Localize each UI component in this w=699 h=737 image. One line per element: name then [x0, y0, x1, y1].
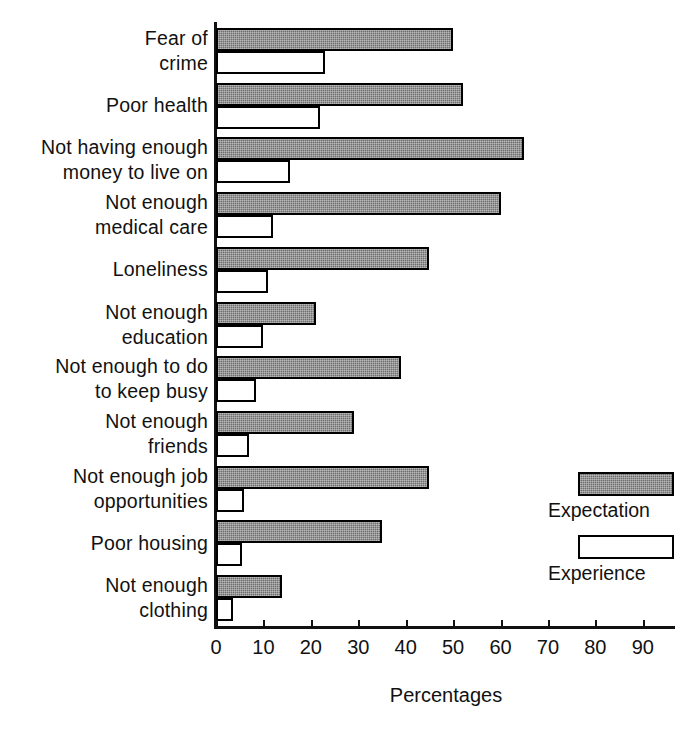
x-axis-tick-label: 40 — [386, 636, 426, 659]
x-axis-tick — [595, 620, 597, 629]
x-axis-tick — [216, 620, 218, 629]
x-axis-tick-label: 80 — [575, 636, 615, 659]
legend-entry-expectation: Expectation — [548, 472, 688, 523]
category-label: Not enough medical care — [0, 190, 208, 240]
bar-experience — [216, 270, 268, 293]
x-axis-tick-label: 60 — [481, 636, 521, 659]
bar-experience — [216, 160, 290, 183]
bar-experience — [216, 379, 256, 402]
bar-expectation — [216, 192, 501, 215]
bar-expectation — [216, 411, 354, 434]
x-axis-tick-label: 0 — [196, 636, 236, 659]
category-label: Fear of crime — [0, 26, 208, 76]
x-axis-tick-label: 50 — [433, 636, 473, 659]
x-axis-tick — [453, 620, 455, 629]
chart-legend: Expectation Experience — [548, 472, 688, 598]
x-axis-tick — [643, 620, 645, 629]
bar-experience — [216, 598, 233, 621]
x-axis-tick-label: 20 — [291, 636, 331, 659]
bar-experience — [216, 51, 325, 74]
bar-chart: Fear of crimePoor healthNot having enoug… — [0, 0, 699, 737]
legend-label-expectation: Expectation — [548, 497, 688, 523]
bar-expectation — [216, 28, 453, 51]
x-axis-tick — [501, 620, 503, 629]
category-label: Not enough friends — [0, 409, 208, 459]
experience-swatch-icon — [578, 535, 674, 559]
category-label: Not having enough money to live on — [0, 135, 208, 185]
x-axis-tick — [358, 620, 360, 629]
category-label: Not enough clothing — [0, 573, 208, 623]
bar-expectation — [216, 575, 282, 598]
bar-experience — [216, 215, 273, 238]
bar-experience — [216, 489, 244, 512]
category-label: Poor health — [0, 93, 208, 118]
x-axis-title: Percentages — [216, 684, 676, 707]
bar-expectation — [216, 466, 429, 489]
bar-experience — [216, 434, 249, 457]
category-label: Not enough education — [0, 300, 208, 350]
bar-experience — [216, 325, 263, 348]
x-axis-tick — [406, 620, 408, 629]
bar-expectation — [216, 302, 316, 325]
legend-label-experience: Experience — [548, 560, 688, 586]
bar-expectation — [216, 137, 524, 160]
category-label: Poor housing — [0, 531, 208, 556]
x-axis-tick-label: 90 — [623, 636, 663, 659]
expectation-swatch-icon — [578, 472, 674, 496]
bar-expectation — [216, 83, 463, 106]
category-label: Loneliness — [0, 257, 208, 282]
x-axis-tick — [548, 620, 550, 629]
x-axis-line — [214, 626, 675, 629]
bar-expectation — [216, 356, 401, 379]
category-label: Not enough job opportunities — [0, 464, 208, 514]
x-axis-tick — [311, 620, 313, 629]
x-axis-tick-label: 30 — [338, 636, 378, 659]
bar-expectation — [216, 247, 429, 270]
bar-experience — [216, 106, 320, 129]
bar-expectation — [216, 520, 382, 543]
x-axis-tick — [263, 620, 265, 629]
x-axis-tick-label: 70 — [528, 636, 568, 659]
category-label: Not enough to do to keep busy — [0, 354, 208, 404]
x-axis-tick-label: 10 — [243, 636, 283, 659]
legend-entry-experience: Experience — [548, 535, 688, 586]
bar-experience — [216, 543, 242, 566]
